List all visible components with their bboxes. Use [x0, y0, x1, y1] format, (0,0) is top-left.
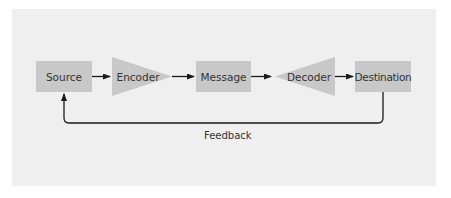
communication-diagram	[0, 0, 451, 198]
source-label: Source	[36, 70, 92, 84]
feedback-arrow	[64, 92, 383, 123]
encoder-label: Encoder	[112, 70, 164, 84]
message-label: Message	[196, 70, 251, 84]
feedback-label: Feedback	[204, 130, 252, 141]
destination-label: Destination	[353, 70, 413, 84]
decoder-label: Decoder	[283, 70, 335, 84]
